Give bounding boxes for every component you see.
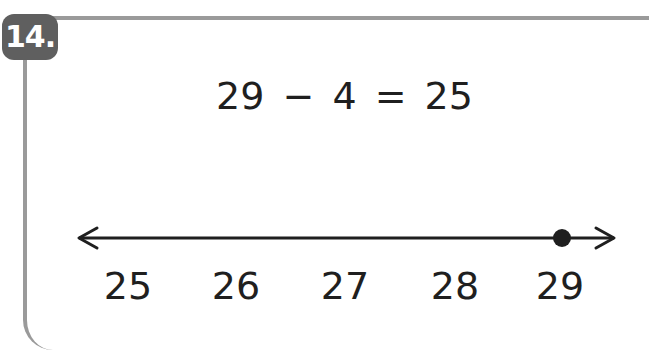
tick-label-29: 29	[536, 264, 584, 308]
tick-label-26: 26	[212, 264, 260, 308]
tick-label-25: 25	[104, 264, 152, 308]
tick-label-28: 28	[431, 264, 479, 308]
marked-point-dot	[553, 229, 571, 247]
tick-label-27: 27	[321, 264, 369, 308]
